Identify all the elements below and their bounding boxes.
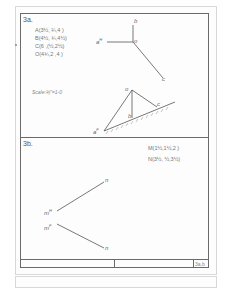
next-page-edge xyxy=(15,276,217,288)
plane-hatching xyxy=(106,107,168,134)
line-oc-top xyxy=(133,42,163,78)
line-oc-side xyxy=(132,90,157,107)
title-block-divider-1 xyxy=(114,260,115,268)
inclined-plane-edge xyxy=(104,102,175,131)
title-block-divider-2 xyxy=(193,260,194,268)
line-mn-front xyxy=(57,224,104,248)
line-mn-top xyxy=(57,182,104,211)
title-block: 3a,b xyxy=(20,259,209,268)
sheet-id: 3a,b xyxy=(195,260,205,268)
